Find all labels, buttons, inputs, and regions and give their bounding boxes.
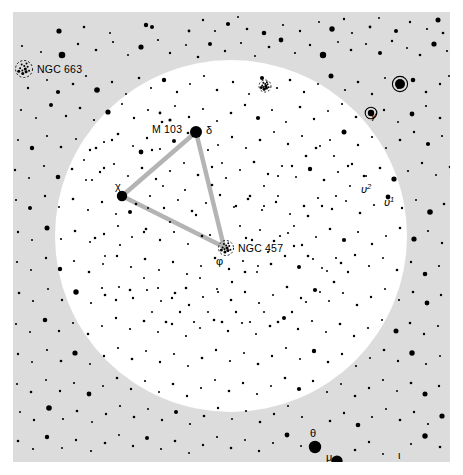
star [293, 225, 295, 227]
star [207, 311, 209, 313]
star [271, 109, 273, 111]
star [146, 137, 148, 139]
star [20, 109, 22, 111]
star [426, 28, 428, 30]
star [165, 321, 168, 324]
star [272, 294, 274, 296]
star [118, 434, 120, 436]
star [203, 75, 205, 77]
star [345, 200, 347, 202]
star [201, 235, 204, 238]
star [117, 347, 119, 349]
star [331, 208, 333, 210]
star [147, 109, 149, 111]
star [235, 205, 237, 207]
star [411, 78, 416, 83]
star [169, 221, 171, 223]
star [233, 206, 235, 208]
star [139, 150, 144, 155]
star [215, 349, 217, 351]
star [33, 419, 35, 421]
star [47, 288, 49, 290]
star [307, 255, 310, 258]
star [425, 91, 428, 94]
star [257, 265, 259, 267]
star [244, 291, 246, 293]
star [103, 233, 105, 235]
star [131, 236, 133, 238]
star [262, 31, 267, 36]
star [279, 38, 284, 43]
star [365, 43, 367, 45]
named-star-delta [190, 126, 202, 138]
star [341, 353, 343, 355]
sky-map: NGC 663M 103NGC 457δχφγθμιυ2υ1 [0, 0, 463, 475]
cluster-member-open-cluster-ne [264, 83, 266, 85]
star [157, 331, 159, 333]
star [104, 442, 107, 445]
star [143, 231, 145, 233]
star [75, 439, 77, 441]
star [162, 185, 164, 187]
star [244, 271, 247, 274]
star [224, 50, 226, 52]
cluster-member-ngc457 [223, 251, 226, 254]
star [235, 311, 237, 313]
star [343, 18, 345, 20]
star [94, 237, 97, 240]
star [385, 235, 387, 237]
star [27, 87, 29, 89]
star [253, 161, 256, 164]
star [317, 83, 319, 85]
star [189, 83, 191, 85]
star [371, 93, 373, 95]
star [277, 195, 279, 197]
star [229, 360, 231, 362]
star [102, 263, 104, 265]
star [214, 30, 216, 32]
star [321, 205, 323, 207]
star [399, 139, 402, 142]
star [91, 179, 93, 181]
star [177, 199, 179, 201]
star [289, 213, 291, 215]
star [85, 179, 87, 181]
star [115, 299, 117, 301]
star [256, 393, 258, 395]
star [318, 21, 320, 23]
star [353, 335, 355, 337]
star [88, 271, 91, 274]
star [410, 112, 415, 117]
star [319, 291, 321, 293]
star [354, 449, 357, 452]
cluster-member-ngc663 [28, 70, 30, 72]
star [423, 333, 425, 335]
star [443, 203, 446, 206]
star [102, 385, 104, 387]
star [171, 297, 173, 299]
star [286, 286, 289, 289]
star [211, 184, 214, 187]
star [257, 363, 260, 366]
star [320, 52, 326, 58]
star [439, 413, 444, 418]
star [135, 203, 138, 206]
star [307, 215, 310, 218]
star [378, 17, 380, 19]
star [35, 117, 37, 119]
star [425, 105, 427, 107]
star [89, 241, 91, 243]
star [95, 147, 98, 150]
star [231, 136, 233, 138]
star [28, 177, 30, 179]
star [197, 174, 200, 177]
star [427, 230, 429, 232]
star [211, 166, 213, 168]
star [14, 169, 16, 171]
star [203, 415, 206, 418]
star [301, 416, 303, 418]
star [245, 147, 247, 149]
star [343, 412, 345, 414]
star [58, 330, 60, 332]
star [344, 89, 346, 91]
